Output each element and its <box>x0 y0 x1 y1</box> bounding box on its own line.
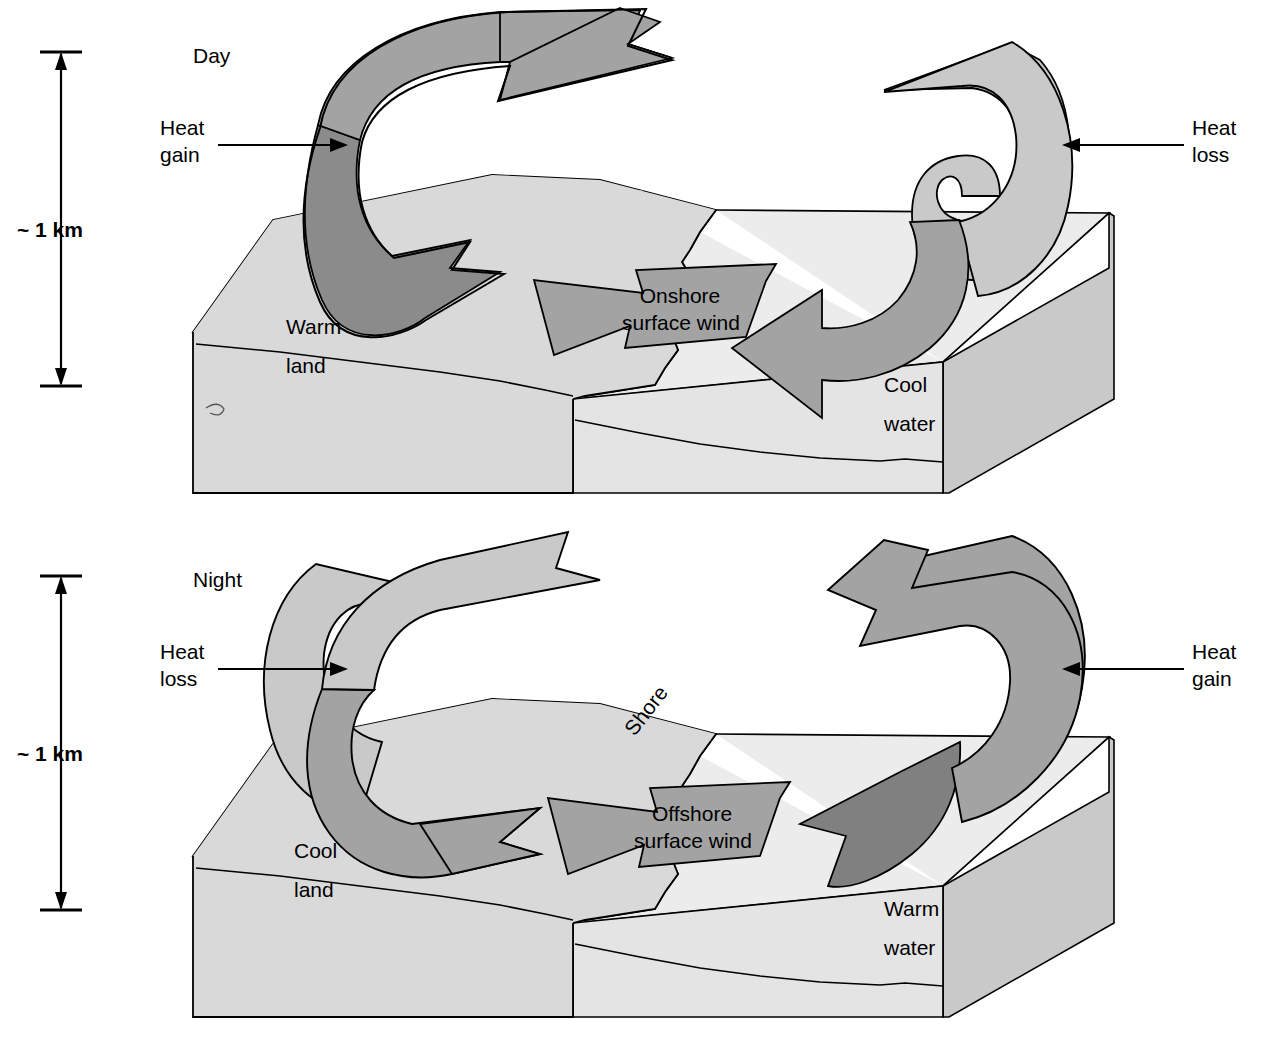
panel-day: ~ 1 km Day Heat gain Heat loss Onshore s… <box>0 0 1268 524</box>
night-scale-bar-svg <box>10 554 190 984</box>
night-heat-gain-arrow-svg <box>1060 654 1210 684</box>
night-heat-loss-label-line1: Heat <box>160 638 204 665</box>
day-land-label-line1: Warm <box>286 313 341 340</box>
day-scale-label: ~ 1 km <box>17 218 83 242</box>
night-land-label-line2: land <box>294 876 334 903</box>
day-onshore-wind-label-line1: Onshore <box>590 282 770 309</box>
day-scale-arrow-up <box>55 52 67 70</box>
day-panel-title: Day <box>193 42 230 69</box>
night-water-label-line2: water <box>884 934 935 961</box>
day-scale-arrow-down <box>55 368 67 386</box>
night-scale-label: ~ 1 km <box>17 742 83 766</box>
day-diagram-svg <box>0 0 1268 524</box>
night-scale-arrow-down <box>55 892 67 910</box>
day-heat-loss-arrow-svg <box>1060 130 1210 160</box>
day-heat-gain-label-line1: Heat <box>160 114 204 141</box>
night-heat-loss-label-line2: loss <box>160 665 197 692</box>
night-land-label-line1: Cool <box>294 837 337 864</box>
day-heat-gain-arrow-svg <box>218 130 378 160</box>
night-offshore-wind-label-line1: Offshore <box>602 800 782 827</box>
arrow-left-head-icon <box>1062 662 1080 676</box>
arrow-right-head-icon <box>330 138 348 152</box>
day-water-label-line2: water <box>884 410 935 437</box>
panel-night: ~ 1 km Night Heat loss Heat gain Shore O… <box>0 524 1268 1048</box>
night-heat-loss-arrow-svg <box>218 654 378 684</box>
arrow-left-head-icon <box>1062 138 1080 152</box>
night-water-label-line1: Warm <box>884 895 939 922</box>
night-offshore-wind-label-line2: surface wind <box>588 827 798 854</box>
day-water-label-line1: Cool <box>884 371 927 398</box>
day-scale-bar-svg <box>10 30 190 460</box>
night-scale-arrow-up <box>55 576 67 594</box>
night-diagram-svg <box>0 524 1268 1048</box>
arrow-right-head-icon <box>330 662 348 676</box>
day-heat-gain-label-line2: gain <box>160 141 200 168</box>
day-onshore-wind-label-line2: surface wind <box>576 309 786 336</box>
day-land-label-line2: land <box>286 352 326 379</box>
night-panel-title: Night <box>193 566 242 593</box>
